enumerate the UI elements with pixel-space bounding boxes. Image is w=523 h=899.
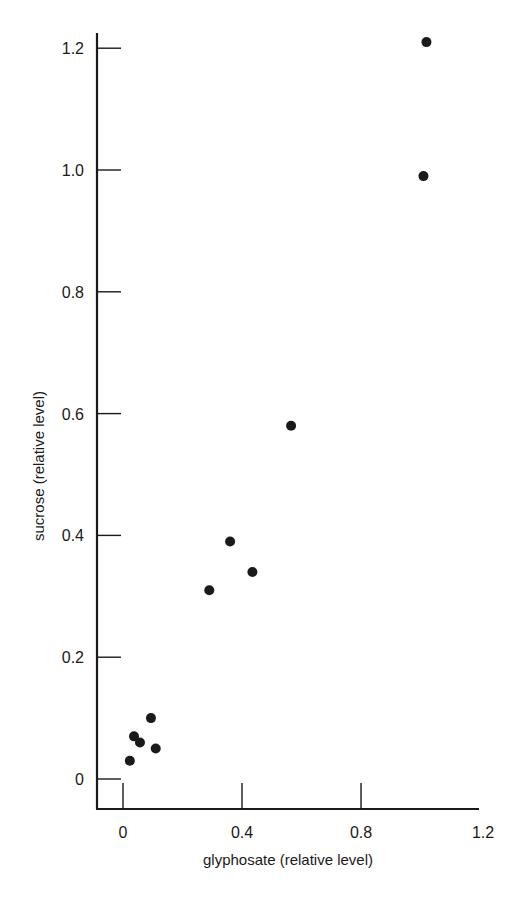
- y-tick-label: 1.0: [62, 162, 84, 179]
- data-point: [125, 756, 135, 766]
- y-ticks: 00.20.40.60.81.01.2: [62, 40, 121, 788]
- data-point: [135, 737, 145, 747]
- x-tick-label: 0: [119, 824, 128, 841]
- data-points: [125, 37, 432, 766]
- y-tick-label: 0: [75, 771, 84, 788]
- data-point: [247, 567, 257, 577]
- y-tick-label: 1.2: [62, 40, 84, 57]
- x-tick-label: 0.8: [350, 824, 372, 841]
- scatter-chart: 00.20.40.60.81.01.2 00.40.81.2 glyphosat…: [0, 0, 523, 899]
- data-point: [286, 421, 296, 431]
- y-tick-label: 0.6: [62, 406, 84, 423]
- data-point: [421, 37, 431, 47]
- y-tick-label: 0.4: [62, 527, 84, 544]
- x-tick-label: 0.4: [231, 824, 253, 841]
- x-axis-label: glyphosate (relative level): [203, 851, 373, 868]
- data-point: [225, 536, 235, 546]
- y-tick-label: 0.2: [62, 649, 84, 666]
- x-ticks: 00.40.81.2: [119, 783, 495, 841]
- y-axis-label: sucrose (relative level): [30, 391, 47, 541]
- data-point: [204, 585, 214, 595]
- data-point: [151, 744, 161, 754]
- axes: [96, 33, 479, 809]
- data-point: [146, 713, 156, 723]
- x-tick-label: 1.2: [472, 824, 494, 841]
- y-tick-label: 0.8: [62, 284, 84, 301]
- data-point: [418, 171, 428, 181]
